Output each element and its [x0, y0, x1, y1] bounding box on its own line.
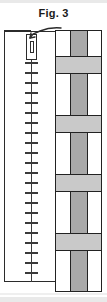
stack-cell-row: [56, 251, 101, 292]
stack-pillar: [70, 74, 88, 115]
scale-tick: [25, 192, 38, 194]
layered-stack: [55, 30, 102, 292]
scale-tick: [25, 262, 38, 264]
scale-tick: [25, 172, 38, 174]
stack-band: [56, 57, 101, 74]
scale-tick: [25, 152, 38, 154]
scale-tick: [25, 182, 38, 184]
patent-figure: Fig. 3: [0, 0, 107, 302]
stack-cell-row: [56, 74, 101, 116]
vessel-top-edge: [4, 30, 31, 32]
scale-tick: [25, 62, 38, 64]
stack-pillar: [70, 251, 88, 292]
probe-element: [30, 41, 35, 53]
stack-cell-row: [56, 133, 101, 175]
scale-tick: [25, 72, 38, 74]
stack-pillar: [70, 133, 88, 174]
scan-edge-bottom: [0, 297, 107, 302]
scale-tick: [25, 102, 38, 104]
scale-tick: [25, 222, 38, 224]
stack-band: [56, 175, 101, 192]
scale-tick: [25, 232, 38, 234]
figure-caption: Fig. 3: [0, 7, 107, 19]
scale-tick: [25, 92, 38, 94]
scale-tick: [25, 252, 38, 254]
stack-pillar: [70, 31, 88, 56]
scan-edge-lower-hairline: [0, 293, 107, 295]
scale-tick: [25, 132, 38, 134]
stack-cell-row: [56, 31, 101, 57]
scale-tick: [25, 112, 38, 114]
scale-tick: [25, 212, 38, 214]
scale-tick: [25, 82, 38, 84]
scale-tick: [25, 272, 38, 274]
scale-tick: [25, 202, 38, 204]
scale-tick: [25, 242, 38, 244]
stack-band: [56, 116, 101, 133]
stack-cell-row: [56, 192, 101, 234]
stack-band: [56, 234, 101, 251]
scan-edge-top: [0, 0, 107, 3]
scale-tick: [25, 122, 38, 124]
scale-tick: [25, 142, 38, 144]
stack-pillar: [70, 192, 88, 233]
scale-tick: [25, 162, 38, 164]
